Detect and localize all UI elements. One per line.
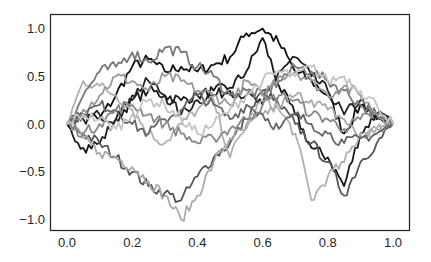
y-tick-label: 0.0 (27, 117, 45, 132)
x-axis-ticks: 0.00.20.40.60.81.0 (58, 235, 402, 250)
y-tick-label: −1.0 (19, 212, 45, 227)
x-tick-label: 0.2 (123, 235, 141, 250)
y-tick-label: 0.5 (27, 69, 45, 84)
x-tick-label: 1.0 (384, 235, 402, 250)
line-chart: 0.00.20.40.60.81.0 1.00.50.0−0.5−1.0 (0, 0, 431, 262)
x-tick-label: 0.8 (319, 235, 337, 250)
y-tick-label: 1.0 (27, 21, 45, 36)
y-tick-label: −0.5 (19, 164, 45, 179)
series-line-6 (67, 81, 393, 200)
y-axis-ticks: 1.00.50.0−0.5−1.0 (19, 21, 45, 227)
x-tick-label: 0.0 (58, 235, 76, 250)
series-layer (67, 29, 393, 222)
x-tick-label: 0.6 (254, 235, 272, 250)
x-tick-label: 0.4 (188, 235, 206, 250)
series-line-2 (67, 38, 393, 186)
